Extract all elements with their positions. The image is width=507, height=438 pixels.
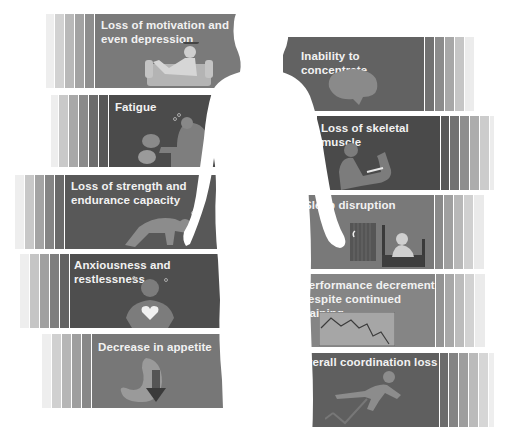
human-body-silhouette xyxy=(0,0,507,438)
